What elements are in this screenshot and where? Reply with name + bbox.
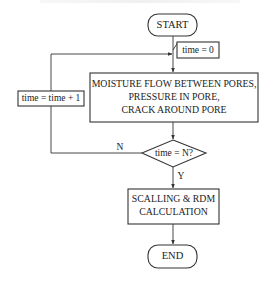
init-label: time = 0 — [182, 45, 214, 55]
end-label: END — [162, 250, 184, 261]
process-node: MOISTURE FLOW BETWEEN PORES, PRESSURE IN… — [90, 73, 258, 122]
start-label: START — [157, 19, 189, 30]
increment-label: time = time + 1 — [22, 93, 81, 103]
process-label-line-2: PRESSURE IN PORE, — [128, 91, 219, 102]
decision-label: time = N? — [155, 148, 193, 158]
end-node: END — [148, 245, 197, 268]
init-node: time = 0 — [177, 42, 219, 58]
calc-label-line-1: SCALLING & RDM — [132, 193, 216, 204]
edge-label-yes: Y — [178, 171, 185, 181]
calc-label-line-2: CALCULATION — [139, 206, 208, 217]
decision-node: time = N? — [142, 140, 206, 167]
process-label-line-3: CRACK AROUND PORE — [121, 104, 226, 115]
calc-node: SCALLING & RDM CALCULATION — [128, 189, 219, 224]
increment-node: time = time + 1 — [18, 91, 84, 106]
process-label-line-1: MOISTURE FLOW BETWEEN PORES, — [92, 78, 257, 89]
flowchart: START time = 0 MOISTURE FLOW BETWEEN POR… — [0, 0, 275, 289]
edge-label-no: N — [117, 142, 124, 152]
start-node: START — [148, 14, 197, 36]
